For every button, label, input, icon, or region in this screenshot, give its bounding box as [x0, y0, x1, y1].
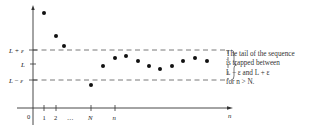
sequence-point [42, 11, 46, 15]
sequence-points [42, 11, 209, 87]
x-tick-label-ellipsis: … [67, 114, 74, 121]
y-axis-arrow-icon [31, 5, 34, 10]
y-label-limit: L [20, 61, 25, 69]
sequence-convergence-diagram: L + ε L L − ε 0 1 2 … N n n The tail of … [0, 0, 310, 134]
sequence-point [136, 59, 140, 63]
annotation-line-3: L − ε and L + ε [226, 69, 295, 78]
sequence-point [147, 64, 151, 68]
annotation-line-2: is trapped between [226, 59, 295, 68]
x-tick-label-2: 2 [54, 114, 57, 121]
x-tick-label-n: n [113, 114, 117, 121]
x-axis-arrow-icon [227, 106, 233, 110]
sequence-point [54, 34, 58, 38]
x-tick-label-N: N [87, 114, 93, 121]
x-axis-label: n [228, 112, 232, 119]
sequence-point [62, 44, 66, 48]
annotation-line-4: for n > N. [226, 78, 295, 87]
annotation-text: The tail of the sequence is trapped betw… [226, 50, 295, 88]
sequence-point [193, 56, 197, 60]
annotation-line-1: The tail of the sequence [226, 50, 295, 59]
epsilon-band [29, 50, 228, 80]
x-tick-label-1: 1 [43, 114, 46, 121]
sequence-point [113, 56, 117, 60]
x-axis [17, 106, 233, 110]
sequence-point [181, 59, 185, 63]
sequence-point [205, 59, 209, 63]
sequence-point [158, 67, 162, 71]
origin-label: 0 [27, 113, 30, 120]
y-label-upper: L + ε [8, 47, 24, 55]
sequence-point [124, 54, 128, 58]
sequence-point [101, 64, 105, 68]
y-axis [31, 5, 34, 125]
sequence-point [89, 83, 93, 87]
y-label-lower: L − ε [8, 77, 23, 85]
sequence-point [170, 64, 174, 68]
